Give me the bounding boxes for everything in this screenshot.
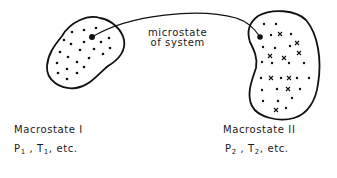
macrostate-2-p-sub: 2: [232, 148, 237, 156]
macrostate-2-region: [248, 11, 319, 119]
microstate-label-line2: of system: [148, 38, 207, 48]
microstate-label: microstate of system: [148, 28, 207, 48]
macrostate-2-params: P2 , T2, etc.: [225, 143, 289, 156]
macrostate-2-crosses: [268, 32, 301, 112]
macrostate-2-etc: etc.: [267, 143, 288, 154]
macrostate-2-p: P: [225, 143, 232, 154]
macrostate-1-params: P1 , T1, etc.: [14, 143, 78, 156]
macrostate-2-points: [260, 23, 310, 109]
macrostate-1-title: Macrostate I: [14, 124, 83, 135]
macrostate-1-p: P: [14, 143, 21, 154]
macrostate-1-points: [56, 27, 112, 81]
macrostate-1-etc: etc.: [56, 143, 77, 154]
macrostate-1-t: T: [37, 143, 44, 154]
macrostate-2-t: T: [248, 143, 255, 154]
macrostate-1-p-sub: 1: [21, 148, 26, 156]
macrostate-2-title: Macrostate II: [223, 124, 295, 135]
macrostate-2-t-sub: 2: [255, 148, 260, 156]
macrostate-1-t-sub: 1: [44, 148, 49, 156]
